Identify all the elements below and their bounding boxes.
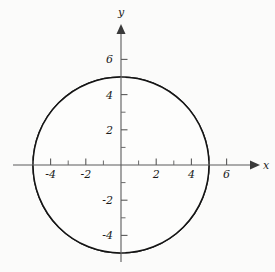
figure-root: -4 -2 2 4 6 6 4 2 -2 -4 x y xyxy=(0,0,275,272)
y-tick-label-6: 6 xyxy=(106,53,113,66)
x-axis-name: x xyxy=(263,159,270,172)
y-tick-label-neg2: -2 xyxy=(102,194,113,207)
x-tick-label-neg2: -2 xyxy=(80,168,91,181)
y-axis-name: y xyxy=(117,6,125,19)
x-axis-arrowhead xyxy=(250,161,260,170)
y-tick-label-2: 2 xyxy=(105,124,113,137)
shaded-region-group xyxy=(0,17,275,253)
x-tick-label-neg4: -4 xyxy=(45,168,56,181)
x-tick-label-6: 6 xyxy=(223,168,230,181)
y-tick-label-4: 4 xyxy=(105,89,113,102)
plot-canvas: -4 -2 2 4 6 6 4 2 -2 -4 x y xyxy=(0,0,275,272)
y-tick-label-neg4: -4 xyxy=(102,229,113,242)
x-tick-label-4: 4 xyxy=(187,168,195,181)
y-axis-arrowhead xyxy=(117,24,126,34)
x-tick-label-2: 2 xyxy=(152,168,160,181)
